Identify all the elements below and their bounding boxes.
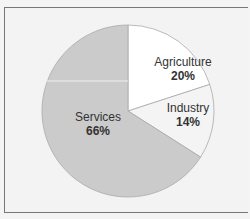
slice-name: Services: [75, 110, 121, 124]
slice-percent: 66%: [68, 124, 128, 138]
slice-percent: 14%: [158, 115, 218, 129]
slice-name: Agriculture: [154, 55, 211, 69]
slice-percent: 20%: [148, 69, 218, 83]
slice-label-industry: Industry 14%: [158, 101, 218, 129]
slice-name: Industry: [167, 101, 210, 115]
slice-label-services: Services 66%: [68, 110, 128, 138]
slice-label-agriculture: Agriculture 20%: [148, 55, 218, 83]
